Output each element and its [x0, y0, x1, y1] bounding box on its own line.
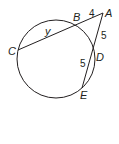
measure-de: 5 — [80, 58, 86, 69]
label-point-c: C — [8, 45, 16, 57]
label-point-e: E — [80, 89, 88, 101]
secant-diagram: A B C D E 4 y 5 5 — [0, 0, 119, 144]
measure-ab: 4 — [89, 8, 95, 19]
label-point-d: D — [96, 51, 104, 63]
label-point-b: B — [73, 11, 80, 23]
label-point-a: A — [104, 7, 112, 19]
measure-ad: 5 — [101, 30, 107, 41]
